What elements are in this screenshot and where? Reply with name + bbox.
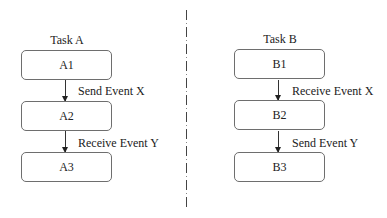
node-a3-label: A3 — [59, 160, 74, 175]
node-a2-label: A2 — [59, 109, 74, 124]
node-b1: B1 — [234, 49, 325, 79]
edge-label-b2-b3: Send Event Y — [292, 136, 358, 150]
task-b-title: Task B — [234, 32, 326, 46]
node-a2: A2 — [21, 101, 112, 131]
arrow-b2-b3 — [278, 131, 279, 152]
arrow-b1-b2 — [278, 80, 279, 100]
task-a-title: Task A — [21, 33, 113, 47]
node-b1-label: B1 — [272, 57, 286, 72]
node-a3: A3 — [21, 152, 112, 182]
node-b2: B2 — [234, 100, 325, 130]
arrow-a2-a3 — [65, 131, 66, 152]
node-a1: A1 — [21, 50, 112, 80]
sequence-diagram: Task A A1 Send Event X A2 Receive Event … — [0, 0, 387, 218]
node-b3: B3 — [234, 152, 325, 182]
edge-label-a2-a3: Receive Event Y — [78, 136, 159, 150]
node-b2-label: B2 — [272, 108, 286, 123]
task-divider-line — [186, 10, 187, 210]
edge-label-b1-b2: Receive Event X — [292, 84, 373, 98]
arrow-a1-a2 — [65, 80, 66, 101]
edge-label-a1-a2: Send Event X — [78, 84, 145, 98]
node-a1-label: A1 — [59, 58, 74, 73]
node-b3-label: B3 — [272, 160, 286, 175]
